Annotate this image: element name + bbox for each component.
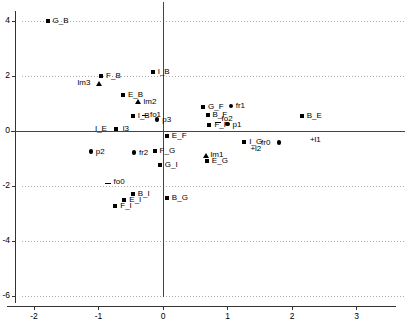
data-point-marker-dash bbox=[142, 115, 148, 116]
data-point-label: B_G bbox=[172, 194, 188, 202]
data-point-marker-square bbox=[151, 70, 155, 74]
data-point-marker-square bbox=[121, 93, 125, 97]
data-point-marker-square bbox=[165, 196, 169, 200]
y-tick-label: 2 bbox=[0, 71, 10, 80]
data-point-marker-circle bbox=[132, 150, 137, 155]
y-tick-label: -6 bbox=[0, 291, 10, 300]
data-point-label: fo0 bbox=[114, 178, 125, 186]
data-point-marker-triangle bbox=[96, 81, 102, 86]
data-point-marker-square bbox=[114, 127, 118, 131]
data-point-marker-square bbox=[300, 114, 304, 118]
data-point-label: F_I bbox=[120, 202, 132, 210]
data-point-label: fr1 bbox=[236, 102, 245, 110]
data-point-marker-square bbox=[207, 123, 211, 127]
data-point-marker-square bbox=[99, 74, 103, 78]
data-point-marker-square bbox=[165, 134, 169, 138]
x-tick-label: -2 bbox=[22, 312, 46, 321]
data-point-label: E_G bbox=[212, 157, 228, 165]
data-point-label: F_F bbox=[214, 121, 228, 129]
data-point-marker-triangle bbox=[203, 153, 209, 158]
x-tick-label: 3 bbox=[345, 312, 369, 321]
data-point-label: l3 bbox=[123, 125, 129, 133]
data-point-marker-square bbox=[158, 163, 162, 167]
data-point-label: B_E bbox=[307, 112, 322, 120]
x-tick-label: -1 bbox=[87, 312, 111, 321]
data-point-marker-square bbox=[206, 113, 210, 117]
data-point-label: I_B bbox=[158, 68, 170, 76]
data-point-label: p3 bbox=[162, 116, 171, 124]
plot-axes-and-grid bbox=[0, 0, 406, 331]
data-point-label: G_I bbox=[165, 161, 178, 169]
data-point-label: lm3 bbox=[78, 79, 91, 87]
data-point-marker-square bbox=[205, 159, 209, 163]
data-point-label: F_B bbox=[106, 72, 121, 80]
y-tick-label: 4 bbox=[0, 16, 10, 25]
data-point-label: G_B bbox=[53, 17, 69, 25]
scatter-plot-figure: 420-2-4-6-2-10123 G_BF_Blm3I_BE_Blm2G_Ff… bbox=[0, 0, 406, 331]
data-point-label: fr2 bbox=[139, 149, 148, 157]
y-tick-label: 0 bbox=[0, 126, 10, 135]
data-point-label: fr0 bbox=[261, 139, 270, 147]
data-point-label: lm2 bbox=[143, 98, 156, 106]
data-point-marker-square bbox=[242, 140, 246, 144]
y-tick-label: -4 bbox=[0, 236, 10, 245]
data-point-label: E_F bbox=[172, 132, 187, 140]
data-point-marker-square bbox=[153, 149, 157, 153]
y-tick-label: -2 bbox=[0, 181, 10, 190]
data-point-marker-square bbox=[131, 114, 135, 118]
data-point-marker-triangle bbox=[135, 99, 141, 104]
data-point-marker-square bbox=[46, 19, 50, 23]
data-point-label: +l1 bbox=[310, 136, 321, 144]
x-tick-label: 1 bbox=[216, 312, 240, 321]
plot-area: 420-2-4-6-2-10123 G_BF_Blm3I_BE_Blm2G_Ff… bbox=[0, 0, 406, 331]
data-point-label: +l2 bbox=[250, 145, 261, 153]
data-point-marker-circle bbox=[229, 104, 234, 109]
data-point-label: p2 bbox=[96, 148, 105, 156]
data-point-marker-dash bbox=[105, 183, 111, 184]
data-point-label: E_B bbox=[128, 91, 143, 99]
data-point-label: F_G bbox=[160, 147, 176, 155]
data-point-label: p1 bbox=[233, 121, 242, 129]
data-point-marker-square bbox=[113, 204, 117, 208]
x-tick-label: 2 bbox=[280, 312, 304, 321]
data-point-marker-circle bbox=[89, 149, 94, 154]
data-point-marker-square bbox=[201, 105, 205, 109]
x-tick-label: 0 bbox=[151, 312, 175, 321]
data-point-label: I_E bbox=[95, 125, 107, 133]
